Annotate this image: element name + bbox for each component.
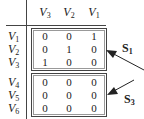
group-label-s3: S3 (124, 92, 135, 107)
arrow-icon (0, 0, 144, 119)
group-label-s1: S1 (122, 41, 133, 56)
